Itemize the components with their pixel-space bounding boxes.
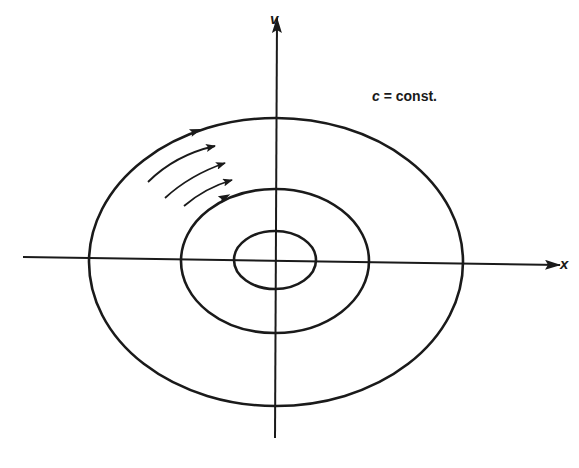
x-axis (23, 257, 560, 265)
flow-arrow (165, 163, 225, 198)
x-axis-label: x (560, 255, 568, 272)
annotation-text: = const. (380, 88, 437, 104)
axes (23, 18, 560, 438)
constant-annotation: c = const. (372, 88, 437, 104)
y-axis (275, 18, 277, 438)
y-axis-label: v (270, 10, 278, 27)
phase-plane-diagram (0, 0, 579, 468)
annotation-variable: c (372, 88, 380, 104)
orbit-direction-arrows (189, 125, 232, 203)
flow-arrow (184, 180, 232, 206)
